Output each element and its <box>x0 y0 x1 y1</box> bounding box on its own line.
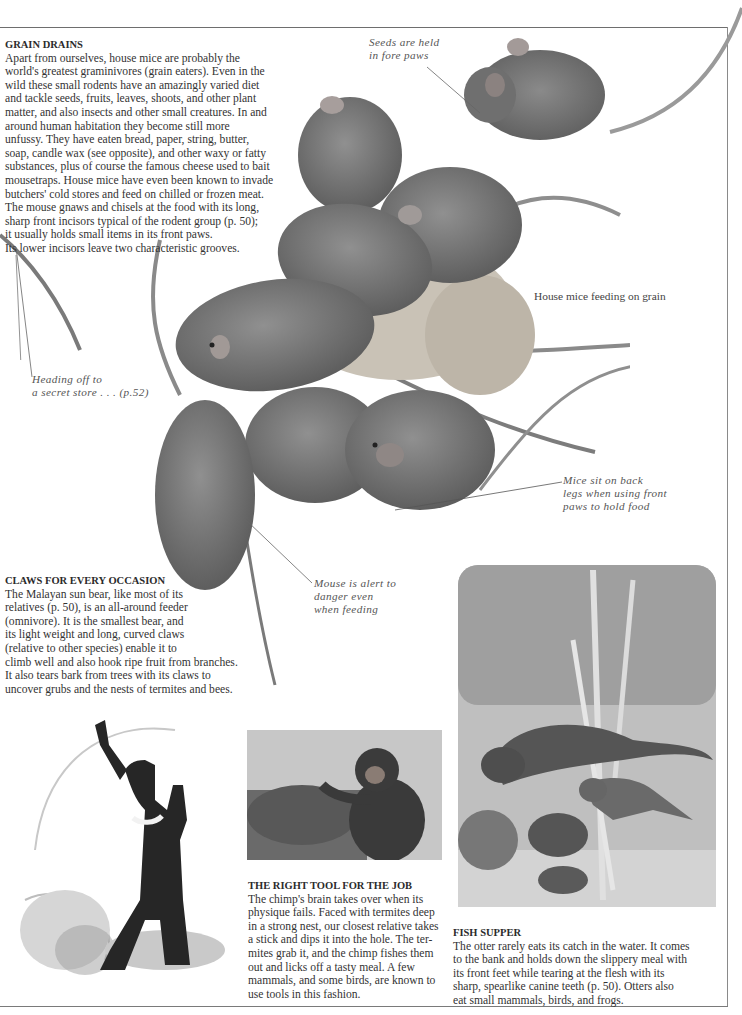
callout-seeds-line: Seeds are held <box>369 36 439 49</box>
fish-supper-section: FISH SUPPER The otter rarely eats its ca… <box>453 926 723 1008</box>
claws-line: climb well and also hook ripe fruit from… <box>5 656 255 670</box>
callout-sit-back-line: Mice sit on back <box>563 474 667 487</box>
claws-line: The Malayan sun bear, like most of its <box>5 588 255 602</box>
right-tool-line: The chimp's brain takes over when its <box>248 893 443 907</box>
claws-line: (relative to other species) enable it to <box>5 642 255 656</box>
callout-heading-off-line: Heading off to <box>32 373 149 386</box>
grain-drains-line: world's greatest graminivores (grain eat… <box>5 65 305 79</box>
grain-drains-line: Apart from ourselves, house mice are pro… <box>5 52 305 66</box>
frame-right-rule <box>727 27 728 1007</box>
fish-supper-line: eat small mammals, birds, and frogs. <box>453 994 723 1008</box>
grain-drains-heading: GRAIN DRAINS <box>5 38 305 52</box>
grain-drains-line: and tackle seeds, fruits, leaves, shoots… <box>5 92 305 106</box>
callout-seeds-line: in fore paws <box>369 49 439 62</box>
grain-drains-line: soap, candle wax (see opposite), and oth… <box>5 147 305 161</box>
callout-alert-line: Mouse is alert to <box>314 577 396 590</box>
claws-line: uncover grubs and the nests of termites … <box>5 683 255 697</box>
grain-drains-line: it usually holds small items in its fron… <box>5 228 305 242</box>
callout-sit-back: Mice sit on back legs when using front p… <box>563 474 667 514</box>
grain-drains-section: GRAIN DRAINS Apart from ourselves, house… <box>5 38 305 256</box>
right-tool-line: mites grab it, and the chimp fishes them <box>248 947 443 961</box>
right-tool-heading: THE RIGHT TOOL FOR THE JOB <box>248 879 443 893</box>
grain-drains-line: unfussy. They have eaten bread, paper, s… <box>5 133 305 147</box>
right-tool-section: THE RIGHT TOOL FOR THE JOB The chimp's b… <box>248 879 443 1001</box>
claws-line: It also tears bark from trees with its c… <box>5 669 255 683</box>
grain-drains-line: The mouse gnaws and chisels at the food … <box>5 201 305 215</box>
image-sun-bear <box>5 700 240 1000</box>
grain-drains-line: butchers' cold stores and feed on chille… <box>5 188 305 202</box>
image-otters <box>453 560 721 912</box>
callout-heading-off-line: a secret store . . . (p.52) <box>32 386 149 399</box>
grain-drains-line: around human habitation they become stil… <box>5 120 305 134</box>
right-tool-line: mammals, and some birds, are known to <box>248 974 443 988</box>
fish-supper-heading: FISH SUPPER <box>453 926 723 940</box>
right-tool-line: a stick and dips it into the hole. The t… <box>248 933 443 947</box>
grain-drains-line: wild these small rodents have an amazing… <box>5 79 305 93</box>
callout-heading-off: Heading off to a secret store . . . (p.5… <box>32 373 149 399</box>
right-tool-line: physique fails. Faced with termites deep <box>248 906 443 920</box>
right-tool-line: out and licks off a tasty meal. A few <box>248 961 443 975</box>
grain-drains-line: mousetraps. House mice have even been kn… <box>5 174 305 188</box>
callout-alert-line: danger even <box>314 590 396 603</box>
grain-drains-line: sharp front incisors typical of the rode… <box>5 215 305 229</box>
claws-line: (omnivore). It is the smallest bear, and <box>5 615 255 629</box>
callout-alert-line: when feeding <box>314 603 396 616</box>
right-tool-line: use tools in this fashion. <box>248 988 443 1002</box>
grain-drains-line: Its lower incisors leave two characteris… <box>5 242 305 256</box>
caption-mice: House mice feeding on grain <box>534 290 666 302</box>
fish-supper-line: its front feet while tearing at the fles… <box>453 967 723 981</box>
claws-line: relatives (p. 50), is an all-around feed… <box>5 601 255 615</box>
fish-supper-line: to the bank and holds down the slippery … <box>453 953 723 967</box>
fish-supper-line: The otter rarely eats its catch in the w… <box>453 940 723 954</box>
callout-sit-back-line: legs when using front <box>563 487 667 500</box>
image-chimp <box>247 730 442 860</box>
claws-heading: CLAWS FOR EVERY OCCASION <box>5 574 255 588</box>
grain-drains-line: matter, and also insects and other small… <box>5 106 305 120</box>
grain-drains-line: substances, plus of course the famous ch… <box>5 160 305 174</box>
callout-alert: Mouse is alert to danger even when feedi… <box>314 577 396 617</box>
fish-supper-line: sharp, spearlike canine teeth (p. 50). O… <box>453 980 723 994</box>
claws-section: CLAWS FOR EVERY OCCASION The Malayan sun… <box>5 574 255 696</box>
callout-sit-back-line: paws to hold food <box>563 500 667 513</box>
claws-line: its light weight and long, curved claws <box>5 628 255 642</box>
right-tool-line: in a strong nest, our closest relative t… <box>248 920 443 934</box>
callout-seeds: Seeds are held in fore paws <box>369 36 439 62</box>
